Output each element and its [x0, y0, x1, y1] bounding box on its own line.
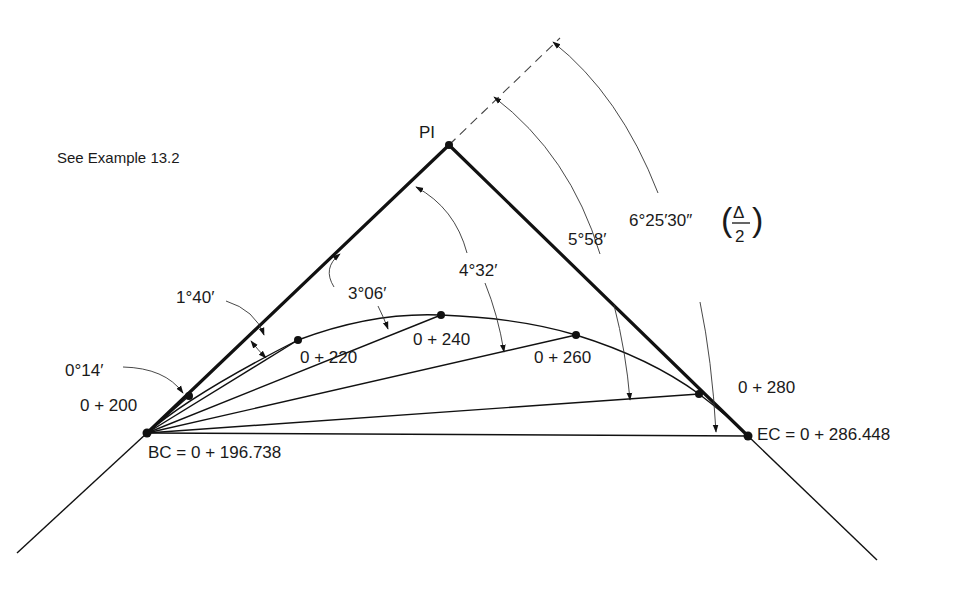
angle-3-06-label: 3°06′ [348, 284, 386, 303]
chord-200 [147, 396, 189, 433]
angle-delta-half-label: 6°25′30″ [629, 211, 692, 230]
chord-220 [147, 340, 298, 433]
angle-0-14-label: 0°14′ [65, 361, 103, 380]
angle-1-40-label: 1°40′ [176, 288, 214, 307]
fraction-denominator: 2 [735, 227, 744, 246]
circular-curve-deflection-diagram: See Example 13.2 PI BC = 0 + 196.738 EC … [0, 0, 960, 593]
station-280-label: 0 + 280 [738, 378, 795, 397]
delta-over-two-fraction: ( Δ 2 ) [721, 200, 763, 246]
long-chord [147, 433, 748, 436]
open-paren: ( [721, 200, 733, 238]
station-220-label: 0 + 220 [300, 348, 357, 367]
angle-4-32-label: 4°32′ [459, 261, 497, 280]
angle-1-40-leader [226, 301, 264, 335]
station-200-label: 0 + 200 [80, 396, 137, 415]
example-caption: See Example 13.2 [57, 149, 180, 166]
bc-label: BC = 0 + 196.738 [148, 443, 281, 462]
fraction-numerator: Δ [733, 203, 744, 222]
angle-4-32-arc-lower [485, 283, 504, 352]
tangent-extension-dashed [449, 38, 560, 145]
station-240-label: 0 + 240 [413, 330, 470, 349]
ec-point [744, 432, 753, 441]
station-200-point [185, 392, 193, 400]
station-240-point [437, 311, 445, 319]
angle-delta-half-arc-lower [700, 302, 716, 432]
close-paren: ) [752, 200, 763, 238]
angle-5-58-label: 5°58′ [568, 230, 606, 249]
pi-point [445, 141, 453, 149]
back-tangent-extension [17, 433, 147, 553]
station-280-point [695, 390, 703, 398]
station-260-label: 0 + 260 [534, 348, 591, 367]
pi-label: PI [419, 123, 435, 142]
angle-1-40-arc [251, 341, 266, 358]
forward-tangent-extension [748, 436, 877, 560]
station-220-point [294, 336, 302, 344]
station-260-point [572, 331, 580, 339]
angle-0-14-leader [123, 367, 183, 393]
ec-label: EC = 0 + 286.448 [757, 425, 890, 444]
bc-point [143, 429, 152, 438]
forward-tangent [449, 145, 748, 436]
angle-4-32-arc-upper [416, 187, 467, 253]
angle-delta-half-arc-upper [553, 42, 658, 193]
